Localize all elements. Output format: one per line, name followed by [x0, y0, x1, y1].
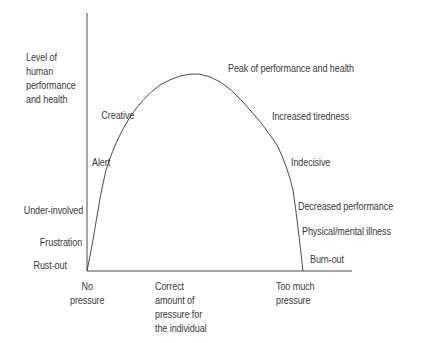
x-tick-correct-pressure: Correct amount of pressure for the indiv… — [155, 279, 207, 335]
label-creative: Creative — [101, 108, 134, 122]
label-increased-tiredness: Increased tiredness — [272, 109, 349, 123]
label-under-involved: Under-involved — [23, 203, 83, 217]
label-alert: Alert — [92, 155, 110, 169]
x-tick-too-much-pressure: Too much pressure — [276, 279, 314, 307]
y-axis-label: Level of human performance and health — [26, 50, 76, 106]
label-rust-out: Rust-out — [34, 258, 67, 272]
label-decreased-performance: Decreased performance — [298, 199, 393, 213]
label-burn-out: Burn-out — [310, 252, 344, 266]
label-physical-mental-illness: Physical/mental illness — [302, 224, 391, 238]
label-indecisive: Indecisive — [291, 155, 330, 169]
performance-curve — [87, 74, 303, 271]
x-tick-no-pressure: No pressure — [70, 279, 104, 307]
label-frustration: Frustration — [40, 235, 82, 249]
label-peak: Peak of performance and health — [228, 61, 354, 75]
